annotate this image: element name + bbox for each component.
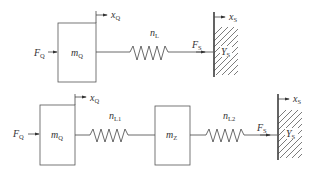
- bottom-force-q: FQ: [12, 128, 39, 140]
- top-wall: YS: [214, 11, 238, 95]
- mechanical-system-diagram: FQ mQ xQ nL FS: [0, 0, 312, 176]
- top-mass-q: mQ: [58, 23, 96, 82]
- bottom-wall: YS: [278, 94, 302, 176]
- svg-text:xS: xS: [292, 93, 301, 105]
- svg-text:FQ: FQ: [12, 128, 24, 140]
- svg-text:xQ: xQ: [89, 92, 99, 104]
- bottom-mass-q: mQ: [40, 105, 75, 165]
- top-displacement-s: xS: [214, 11, 237, 23]
- svg-text:xQ: xQ: [110, 9, 120, 21]
- svg-text:FQ: FQ: [33, 47, 45, 59]
- spring-icon: [90, 129, 128, 142]
- top-system: FQ mQ xQ nL FS: [33, 9, 238, 95]
- bottom-displacement-q: xQ: [75, 92, 99, 105]
- svg-text:FS: FS: [191, 39, 202, 51]
- top-force-q: FQ: [33, 47, 57, 59]
- bottom-spring-l1: nL1: [75, 110, 155, 142]
- svg-text:xS: xS: [228, 11, 237, 23]
- bottom-displacement-s: xS: [278, 93, 301, 105]
- svg-text:nL1: nL1: [109, 110, 121, 122]
- svg-text:FS: FS: [256, 122, 267, 134]
- spring-icon: [130, 46, 168, 60]
- top-displacement-q: xQ: [96, 9, 120, 23]
- spring-icon: [206, 129, 244, 142]
- bottom-system: FQ mQ xQ nL1 mZ: [12, 92, 302, 176]
- top-spring-l: nL FS: [96, 27, 213, 60]
- svg-text:nL: nL: [150, 27, 159, 39]
- bottom-spring-l2: nL2 FS: [190, 110, 277, 142]
- bottom-mass-z: mZ: [155, 106, 190, 165]
- svg-text:nL2: nL2: [223, 110, 235, 122]
